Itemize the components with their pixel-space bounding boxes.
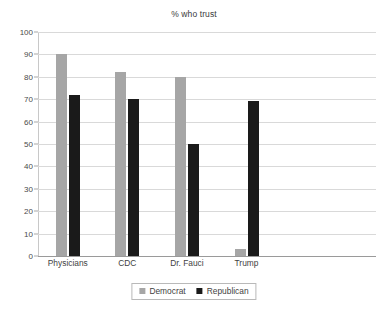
x-axis-category-labels: PhysiciansCDCDr. FauciTrump [38,258,376,274]
legend-item-republican[interactable]: Republican [197,286,249,296]
gridline [38,77,376,78]
gridline [38,166,376,167]
legend-swatch-icon [139,288,145,294]
bar-democrat-trump [235,249,246,256]
gridline [38,256,376,257]
bar-democrat-cdc [115,72,126,256]
x-axis-label-trump: Trump [235,258,259,268]
gridline [38,122,376,123]
gridline [38,189,376,190]
bar-republican-physicians [69,95,80,256]
chart-legend: DemocratRepublican [131,283,256,300]
bar-chart: % who trust 0102030405060708090100 Physi… [0,0,388,317]
bar-republican-cdc [128,99,139,256]
x-axis-label-cdc: CDC [118,258,136,268]
chart-title: % who trust [0,9,388,19]
x-axis-label-dr-fauci: Dr. Fauci [170,258,204,268]
bar-democrat-physicians [56,54,67,256]
gridline [38,211,376,212]
gridline [38,234,376,235]
gridline [38,54,376,55]
bar-republican-dr-fauci [188,144,199,256]
y-axis-tick-marks [0,32,38,256]
gridline [38,144,376,145]
legend-swatch-icon [197,288,203,294]
legend-label: Democrat [149,286,185,296]
bar-democrat-dr-fauci [175,77,186,256]
bar-republican-trump [248,101,259,256]
plot-area [38,32,376,256]
x-axis-label-physicians: Physicians [48,258,88,268]
legend-label: Republican [207,286,249,296]
legend-item-democrat[interactable]: Democrat [139,286,185,296]
gridline [38,99,376,100]
gridline [38,32,376,33]
